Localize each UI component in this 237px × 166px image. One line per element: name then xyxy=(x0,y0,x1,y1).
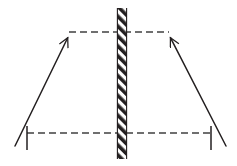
figure-canvas xyxy=(0,0,237,166)
hatched-barrier-fill xyxy=(117,8,127,159)
diagram-svg xyxy=(0,0,237,166)
hatched-barrier xyxy=(117,8,127,159)
